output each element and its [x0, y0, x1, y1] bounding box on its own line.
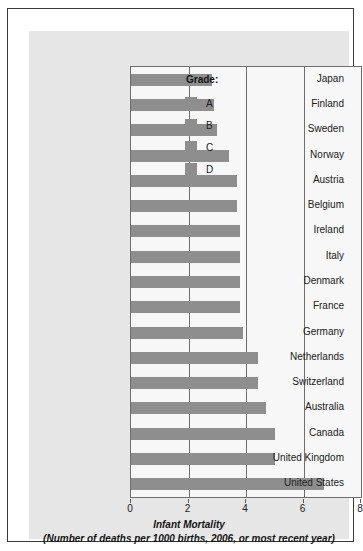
figure-frame: JapanFinlandSwedenNorwayAustriaBelgiumIr… — [7, 8, 354, 542]
legend-label: C — [206, 142, 213, 153]
bar — [131, 276, 240, 288]
x-tick-label: 4 — [235, 503, 255, 514]
legend-title: Grade: — [185, 74, 257, 85]
category-label: United Kingdom — [253, 452, 349, 464]
legend-swatch-icon — [185, 141, 197, 153]
legend-swatch-icon — [185, 97, 197, 109]
category-label: Netherlands — [253, 351, 349, 363]
legend-item: C — [185, 136, 257, 158]
category-label: Denmark — [253, 275, 349, 287]
x-tick-label: 2 — [178, 503, 198, 514]
x-tick-label: 0 — [120, 503, 140, 514]
x-tick-label: 8 — [350, 503, 363, 514]
bar — [131, 402, 266, 414]
bar — [131, 327, 243, 339]
category-label: United States — [253, 477, 349, 489]
legend-item: A — [185, 92, 257, 114]
legend-swatch-icon — [185, 119, 197, 131]
bar — [131, 301, 240, 313]
legend-items: ABCD — [185, 92, 257, 180]
category-label: Germany — [253, 326, 349, 338]
category-label: Austria — [253, 174, 349, 186]
category-label: Ireland — [253, 224, 349, 236]
category-label: Switzerland — [253, 376, 349, 388]
legend-label: A — [206, 98, 213, 109]
category-label: Australia — [253, 401, 349, 413]
legend-swatch-icon — [185, 163, 197, 175]
category-label: Finland — [253, 98, 349, 110]
legend-label: D — [206, 164, 213, 175]
bar — [131, 352, 258, 364]
legend: Grade: ABCD — [185, 74, 257, 180]
bar — [131, 200, 237, 212]
legend-item: B — [185, 114, 257, 136]
legend-item: D — [185, 158, 257, 180]
category-label: Norway — [253, 149, 349, 161]
category-label: Italy — [253, 250, 349, 262]
chart-subtitle: (Number of deaths per 1000 births, 2006,… — [29, 532, 349, 546]
chart-title: Infant Mortality — [29, 518, 349, 532]
bar — [131, 225, 240, 237]
bar — [131, 377, 258, 389]
category-label: Sweden — [253, 123, 349, 135]
axis-title-block: Infant Mortality (Number of deaths per 1… — [29, 518, 349, 546]
category-label: Belgium — [253, 199, 349, 211]
category-label: France — [253, 300, 349, 312]
x-axis: 02468 — [130, 499, 362, 515]
chart-panel: JapanFinlandSwedenNorwayAustriaBelgiumIr… — [29, 31, 349, 539]
category-label: Canada — [253, 427, 349, 439]
legend-label: B — [206, 120, 213, 131]
category-label: Japan — [253, 73, 349, 85]
x-tick-label: 6 — [293, 503, 313, 514]
bar — [131, 251, 240, 263]
